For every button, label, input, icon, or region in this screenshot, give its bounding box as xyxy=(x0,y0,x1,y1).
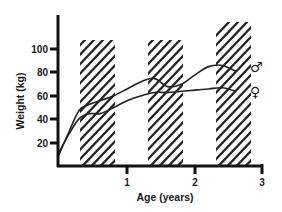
hatched-band-2 xyxy=(138,0,193,212)
x-tick-label-2: 2 xyxy=(192,177,198,188)
y-tick-label-20: 20 xyxy=(37,138,49,149)
hatched-band-3 xyxy=(206,0,261,212)
x-tick-label-1: 1 xyxy=(124,177,130,188)
y-tick-label-100: 100 xyxy=(31,44,48,55)
y-axis-title: Weight (kg) xyxy=(14,73,26,130)
male-symbol-label: ♂ xyxy=(250,59,263,75)
x-axis-title: Age (years) xyxy=(136,191,193,203)
x-tick-label-3: 3 xyxy=(259,177,265,188)
y-tick-label-80: 80 xyxy=(37,67,49,78)
y-tick-label-40: 40 xyxy=(37,114,49,125)
female-symbol-label: ♀ xyxy=(250,84,260,100)
y-tick-label-60: 60 xyxy=(37,91,49,102)
weight-age-chart: 100 80 60 40 20 1 2 3 Age (years) Weight… xyxy=(0,0,282,212)
